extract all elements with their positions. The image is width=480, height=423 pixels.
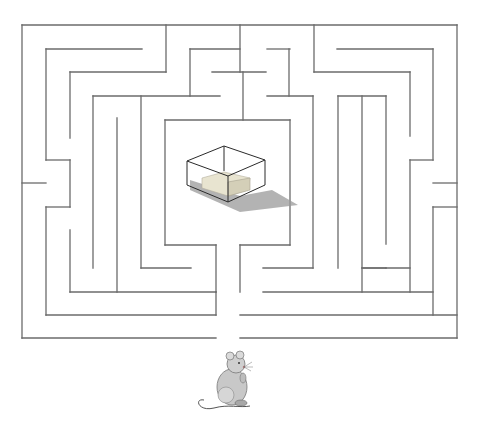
maze-canvas[interactable] bbox=[0, 0, 480, 423]
maze-puzzle: Maze puzzle: guide the mouse to the chee… bbox=[0, 0, 480, 423]
cheese-box-icon[interactable] bbox=[187, 146, 298, 212]
mouse-icon[interactable] bbox=[199, 351, 253, 409]
